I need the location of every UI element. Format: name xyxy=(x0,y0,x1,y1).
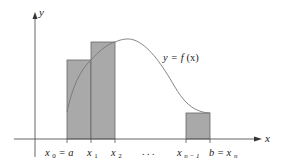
curve-label: y = f (x) xyxy=(162,52,199,64)
rectangle-1 xyxy=(67,60,91,139)
curve-label-y: y xyxy=(162,52,168,63)
x-axis-arrow-icon xyxy=(254,137,262,142)
tick-label-x0: x 0 = a xyxy=(44,147,73,160)
curve-label-eq: = xyxy=(171,52,177,63)
x-axis-label: x xyxy=(264,132,270,144)
riemann-sum-diagram: x y y = f (x) x 0 = a x 1 x 2 . . . x n … xyxy=(0,0,283,166)
tick-label-xn1: x n − 1 xyxy=(176,147,200,160)
tick-label-xn: b = x n xyxy=(209,147,238,160)
curve-label-arg: (x) xyxy=(186,52,199,64)
tick-label-x2: x 2 xyxy=(110,147,122,160)
tick-label-x1: x 1 xyxy=(86,147,98,160)
y-axis-arrow-icon xyxy=(33,12,38,19)
rectangle-n xyxy=(186,113,210,139)
y-axis-label: y xyxy=(38,6,44,18)
curve-label-f: f xyxy=(181,52,186,63)
tick-label-dots: . . . xyxy=(142,146,155,157)
